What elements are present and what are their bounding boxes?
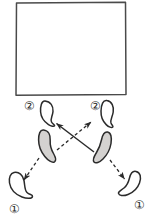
arrow-solid-right-to-upper-left [57, 124, 95, 153]
label-1-left: ① [9, 202, 20, 216]
label-2-left-text: ② [24, 99, 35, 113]
label-2-left: ② [24, 99, 35, 113]
label-2-right: ② [90, 99, 101, 113]
label-1-right: ① [134, 198, 145, 212]
label-1-left-text: ① [9, 202, 20, 216]
bean-upper-right [101, 100, 113, 127]
arrow-dashed-left-to-lower-left [24, 158, 39, 180]
bean-center-right [93, 132, 111, 163]
bean-upper-left [41, 101, 55, 126]
label-2-right-text: ② [90, 99, 101, 113]
diagram-canvas: ② ② ① ① [0, 0, 153, 221]
bean-lower-left [9, 172, 32, 198]
bean-center-left [39, 130, 56, 162]
arrow-dashed-right-to-lower-right [110, 160, 125, 179]
label-1-right-text: ① [134, 198, 145, 212]
figure-container: ② ② ① ① [0, 0, 153, 221]
rectangle-outline [16, 2, 126, 95]
